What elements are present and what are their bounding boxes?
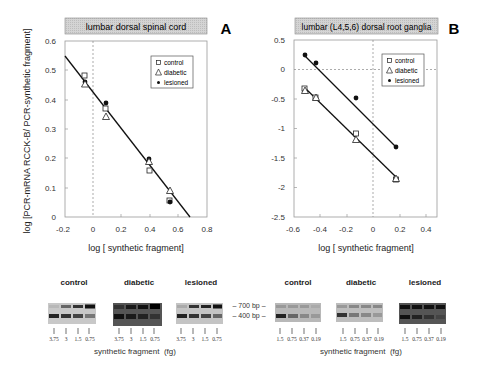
y-tick-label: 0.6 bbox=[45, 37, 57, 46]
y-tick-label: 0 bbox=[281, 65, 286, 74]
lane-labels: 3.753 1.50.75 3.753 1.50.75 3.753 1.50.7… bbox=[49, 336, 446, 342]
marker-400bp: – 400 bp – bbox=[232, 312, 265, 320]
svg-text:1.5: 1.5 bbox=[75, 336, 82, 342]
dot-marker-icon bbox=[388, 79, 391, 82]
x-tick-label: 0.2 bbox=[115, 225, 127, 234]
dot-marker-icon bbox=[157, 81, 160, 84]
y-tick-label: 0.5 bbox=[45, 66, 57, 75]
y-tick-label: 0 bbox=[52, 213, 57, 222]
panel-b: lumbar (L4,5,6) dorsal root ganglia B 0.… bbox=[271, 18, 459, 253]
x-tick-label: 0 bbox=[91, 225, 96, 234]
svg-text:1.5: 1.5 bbox=[402, 336, 409, 342]
svg-text:0.75: 0.75 bbox=[350, 336, 360, 342]
panel-b-title: lumbar (L4,5,6) dorsal root ganglia bbox=[302, 22, 432, 32]
y-tick-label: 0.4 bbox=[45, 96, 57, 105]
gel-lesioned-right bbox=[399, 303, 446, 324]
y-tick-label: 0.3 bbox=[45, 125, 57, 134]
panel-a-title: lumbar dorsal spinal cord bbox=[86, 22, 187, 32]
gel-lesioned-left bbox=[176, 303, 223, 324]
y-tick-label: -2.5 bbox=[271, 213, 285, 222]
svg-text:3: 3 bbox=[65, 336, 68, 342]
lane-ticks bbox=[54, 328, 441, 334]
control-point bbox=[82, 73, 87, 78]
y-tick-label: -1.5 bbox=[271, 154, 285, 163]
gel-label-diabetic-right: diabetic bbox=[346, 278, 377, 287]
svg-text:0.37: 0.37 bbox=[299, 336, 309, 342]
svg-text:0.75: 0.75 bbox=[287, 336, 297, 342]
panel-b-x-label: log [ synthetic fragment] bbox=[318, 243, 414, 253]
square-marker-icon bbox=[157, 61, 161, 65]
control-point bbox=[147, 168, 152, 173]
lesioned-point bbox=[104, 101, 109, 106]
lesioned-point bbox=[354, 96, 359, 101]
x-tick-label: 0.6 bbox=[172, 225, 184, 234]
svg-text:3.75: 3.75 bbox=[114, 336, 124, 342]
legend-control: control bbox=[395, 57, 415, 64]
panel-b-letter: B bbox=[449, 20, 460, 37]
y-tick-label: 0.1 bbox=[45, 184, 57, 193]
gel-label-control-left: control bbox=[60, 278, 87, 287]
gel-diabetic-left bbox=[113, 303, 162, 326]
svg-text:0.19: 0.19 bbox=[311, 336, 321, 342]
svg-text:1.5: 1.5 bbox=[340, 336, 347, 342]
svg-text:0.75: 0.75 bbox=[412, 336, 422, 342]
lesioned-point bbox=[394, 145, 399, 150]
x-tick-label: -0.6 bbox=[286, 225, 300, 234]
gel-control-right bbox=[275, 303, 321, 322]
x-tick-label: 0.4 bbox=[420, 225, 432, 234]
panel-a-x-axis: -0.2 0 0.2 0.4 0.6 0.8 bbox=[56, 225, 213, 234]
control-point bbox=[103, 106, 108, 111]
panel-a-y-axis: 0.6 0.5 0.4 0.3 0.2 0.1 0 bbox=[45, 37, 57, 222]
legend-lesioned: lesioned bbox=[395, 77, 420, 84]
diabetic-point bbox=[82, 81, 89, 88]
panel-a-letter: A bbox=[221, 20, 232, 37]
diabetic-point bbox=[103, 113, 110, 120]
gel-label-diabetic-left: diabetic bbox=[124, 278, 155, 287]
marker-700bp: – 700 bp – bbox=[232, 302, 265, 310]
x-tick-label: 0.8 bbox=[201, 225, 213, 234]
x-tick-label: -0.2 bbox=[56, 225, 70, 234]
svg-text:0.37: 0.37 bbox=[362, 336, 372, 342]
svg-text:3.75: 3.75 bbox=[49, 336, 59, 342]
svg-text:3: 3 bbox=[192, 336, 195, 342]
x-tick-label: 0.2 bbox=[394, 225, 406, 234]
gel-caption-left: synthetic fragment (fg) bbox=[94, 347, 176, 356]
panel-a-y-label: log [PCR-mRNA RCCK-B/ PCR-synthetic frag… bbox=[22, 28, 32, 233]
figure: lumbar dorsal spinal cord A 0.6 0.5 0.4 … bbox=[0, 0, 481, 376]
lesioned-point bbox=[303, 53, 308, 58]
square-marker-icon bbox=[388, 59, 392, 63]
svg-text:0.75: 0.75 bbox=[212, 336, 222, 342]
bp-markers: – 700 bp – – 400 bp – bbox=[232, 302, 265, 320]
svg-text:0.19: 0.19 bbox=[374, 336, 384, 342]
legend-lesioned: lesioned bbox=[164, 79, 189, 86]
lesioned-point bbox=[314, 61, 319, 66]
panel-a-data-points bbox=[82, 73, 174, 204]
gel-control-left bbox=[48, 303, 96, 324]
svg-text:1.5: 1.5 bbox=[202, 336, 209, 342]
y-tick-label: 0.2 bbox=[45, 154, 57, 163]
panel-a-legend: control diabetic lesioned bbox=[151, 56, 193, 88]
panel-b-x-axis: -0.6 -0.4 -0.2 0 0.2 0.4 bbox=[286, 225, 432, 234]
panel-a-x-label: log [ synthetic fragment] bbox=[88, 243, 184, 253]
x-tick-label: 0 bbox=[371, 225, 376, 234]
svg-text:3: 3 bbox=[130, 336, 133, 342]
svg-text:0.19: 0.19 bbox=[436, 336, 446, 342]
gel-diabetic-right bbox=[336, 303, 383, 322]
svg-text:0.75: 0.75 bbox=[85, 336, 95, 342]
diabetic-point bbox=[353, 136, 360, 143]
gel-label-lesioned-right: lesioned bbox=[409, 278, 442, 287]
x-tick-label: -0.2 bbox=[339, 225, 353, 234]
svg-text:1.5: 1.5 bbox=[277, 336, 284, 342]
lesioned-point bbox=[168, 200, 173, 205]
gel-label-control-right: control bbox=[284, 278, 311, 287]
panel-b-y-axis: 0.5 0 -0.5 -1 -1.5 -2 -2.5 bbox=[271, 36, 285, 222]
legend-diabetic: diabetic bbox=[164, 69, 187, 76]
y-tick-label: -2 bbox=[278, 183, 286, 192]
legend-control: control bbox=[164, 59, 184, 66]
x-tick-label: 0.4 bbox=[144, 225, 156, 234]
gel-label-lesioned-left: lesioned bbox=[185, 278, 218, 287]
svg-text:1.5: 1.5 bbox=[140, 336, 147, 342]
gel-section: control diabetic lesioned control diabet… bbox=[48, 278, 446, 356]
panel-b-legend: control diabetic lesioned bbox=[382, 54, 424, 86]
y-tick-label: -1 bbox=[278, 124, 286, 133]
